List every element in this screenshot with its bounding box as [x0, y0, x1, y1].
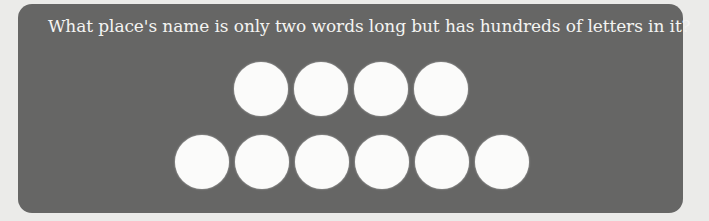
letter-blank[interactable] [355, 135, 409, 189]
letter-blank[interactable] [354, 62, 408, 116]
puzzle-card: What place's name is only two words long… [18, 4, 683, 213]
letter-blank[interactable] [414, 62, 468, 116]
letter-blank[interactable] [175, 135, 229, 189]
letter-blank[interactable] [475, 135, 529, 189]
letter-blank[interactable] [295, 135, 349, 189]
letter-blank[interactable] [235, 135, 289, 189]
letter-blank[interactable] [294, 62, 348, 116]
letter-blank[interactable] [415, 135, 469, 189]
answer-word-1 [234, 62, 468, 116]
question-text: What place's name is only two words long… [48, 16, 691, 36]
letter-blank[interactable] [234, 62, 288, 116]
answer-word-2 [175, 135, 529, 189]
